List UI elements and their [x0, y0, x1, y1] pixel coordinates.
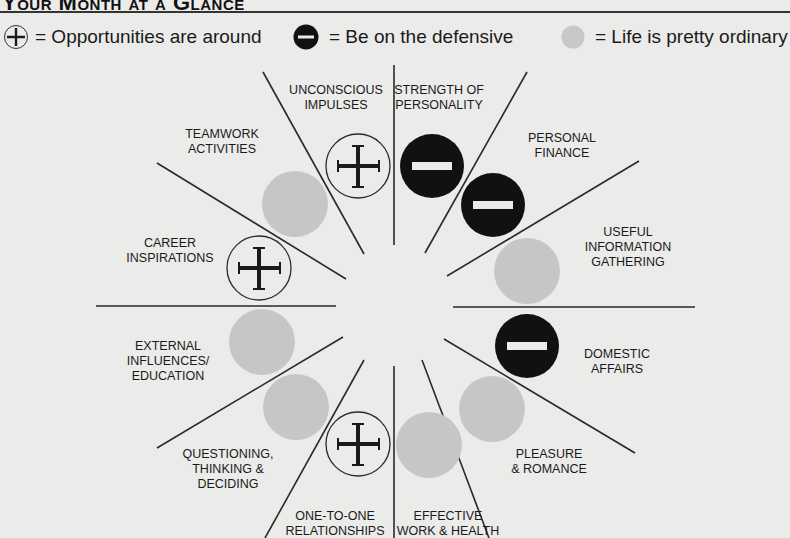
sector-label-teamwork-activities: Teamwork Activities — [185, 127, 259, 157]
marker-career-inspirations-plus-icon — [227, 236, 291, 300]
month-wheel-diagram — [0, 0, 790, 538]
marker-unconscious-impulses-plus-icon — [326, 134, 390, 198]
sector-label-personal-finance: Personal Finance — [528, 131, 596, 161]
marker-questioning-ordinary-icon — [263, 374, 329, 440]
sector-label-useful-information-gathering: Useful Information Gathering — [585, 225, 672, 270]
marker-teamwork-ordinary-icon — [262, 171, 328, 237]
marker-useful-information-ordinary-icon — [494, 238, 560, 304]
marker-pleasure-romance-ordinary-icon — [459, 376, 525, 442]
marker-one-to-one-plus-icon — [326, 412, 390, 476]
sector-label-one-to-one-relationships: One-to-One Relationships — [285, 509, 384, 538]
sector-label-questioning-thinking-deciding: Questioning, Thinking & Deciding — [183, 447, 274, 492]
sector-label-career-inspirations: Career Inspirations — [126, 236, 213, 266]
marker-domestic-affairs-minus-icon — [495, 314, 559, 378]
marker-external-influences-ordinary-icon — [229, 309, 295, 375]
sector-label-strength-of-personality: Strength of Personality — [394, 83, 484, 113]
sector-label-effective-work-health: Effective Work & Health — [397, 509, 500, 538]
marker-effective-work-ordinary-icon — [396, 412, 462, 478]
marker-personal-finance-minus-icon — [461, 173, 525, 237]
marker-strength-personality-minus-icon — [400, 134, 464, 198]
sector-label-external-influences-education: External Influences/ Education — [127, 339, 210, 384]
sector-label-unconscious-impulses: Unconscious Impulses — [289, 83, 383, 113]
sector-label-domestic-affairs: Domestic Affairs — [584, 347, 650, 377]
sector-label-pleasure-romance: Pleasure & Romance — [511, 447, 587, 477]
